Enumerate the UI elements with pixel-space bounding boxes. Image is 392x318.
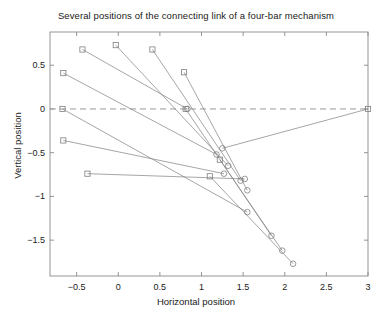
circle-marker-9	[290, 261, 296, 267]
plot-area	[0, 0, 392, 318]
x-tick-label-1: 0	[116, 282, 121, 292]
coupler-link-position-10	[210, 176, 293, 263]
y-tick-label-0: 0.5	[14, 60, 45, 70]
x-tick-label-7: 3	[365, 282, 370, 292]
coupler-link-lines	[62, 45, 368, 264]
axis-ticks	[50, 32, 368, 276]
square-marker-4	[181, 70, 186, 75]
x-tick-label-2: 0.5	[154, 282, 167, 292]
y-axis-title: Vertical position	[12, 86, 23, 206]
coupler-link-position-2	[82, 49, 187, 108]
x-tick-label-0: −0.5	[68, 282, 86, 292]
axes-box	[50, 32, 368, 276]
y-tick-label-4: −1.5	[14, 235, 45, 245]
x-axis-title: Horizontal position	[0, 296, 392, 307]
link-endpoint-markers	[60, 43, 371, 267]
x-tick-label-6: 2.5	[320, 282, 333, 292]
x-tick-label-5: 2	[282, 282, 287, 292]
coupler-link-position-12	[222, 109, 368, 148]
coupler-link-position-1	[63, 73, 216, 154]
coupler-link-position-11	[220, 160, 282, 251]
coupler-link-position-7	[62, 109, 247, 212]
figure-canvas: Several positions of the connecting link…	[0, 0, 392, 318]
x-tick-label-3: 1	[199, 282, 204, 292]
coupler-link-position-5	[184, 72, 247, 190]
coupler-link-position-3	[116, 45, 228, 166]
coupler-link-position-4	[152, 49, 240, 180]
circle-marker-5	[269, 233, 275, 239]
x-tick-label-4: 1.5	[237, 282, 250, 292]
